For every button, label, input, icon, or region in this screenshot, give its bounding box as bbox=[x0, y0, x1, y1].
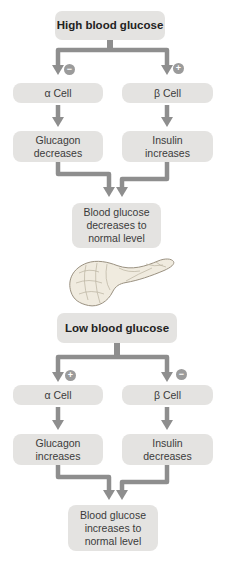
high-insulin-effect-box: Insulin increases bbox=[122, 131, 213, 162]
low-beta-arrow bbox=[161, 407, 173, 430]
low-converge-connector bbox=[58, 465, 167, 500]
high-alpha-cell-box: α Cell bbox=[13, 83, 103, 103]
pancreas-icon bbox=[70, 259, 174, 306]
high-alpha-inhibition-badge: − bbox=[64, 64, 75, 75]
high-beta-stimulation-badge: + bbox=[173, 63, 184, 74]
high-beta-arrow bbox=[161, 105, 173, 127]
low-beta-inhibition-badge: − bbox=[176, 369, 187, 380]
low-beta-cell-box: β Cell bbox=[122, 385, 213, 405]
low-alpha-cell-box: α Cell bbox=[13, 385, 103, 405]
low-insulin-effect-box: Insulin decreases bbox=[122, 434, 213, 465]
high-glucose-header: High blood glucose bbox=[55, 11, 165, 40]
low-outcome-box: Blood glucose increases to normal level bbox=[68, 505, 158, 551]
high-alpha-arrow bbox=[52, 105, 64, 127]
low-glucagon-effect-box: Glucagon increases bbox=[13, 434, 103, 465]
high-glucagon-effect-box: Glucagon decreases bbox=[13, 131, 103, 162]
high-outcome-box: Blood glucose decreases to normal level bbox=[72, 203, 161, 248]
low-glucose-header: Low blood glucose bbox=[57, 313, 177, 343]
diagram-canvas: High blood glucose − + α Cell β Cell Glu… bbox=[0, 0, 234, 567]
low-alpha-arrow bbox=[52, 407, 64, 430]
high-beta-cell-box: β Cell bbox=[122, 83, 213, 103]
high-converge-connector bbox=[58, 162, 167, 197]
low-alpha-stimulation-badge: + bbox=[65, 370, 76, 381]
